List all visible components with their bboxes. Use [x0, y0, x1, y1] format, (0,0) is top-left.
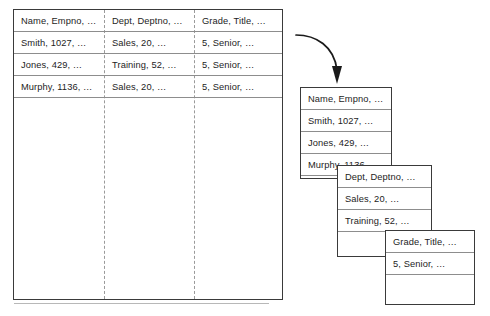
- table-cell: Training, 52, …: [104, 54, 194, 75]
- table-cell: Sales, 20, …: [104, 32, 194, 53]
- table-cell: 5, Senior, …: [194, 32, 284, 53]
- diagram-canvas: Name, Empno, … Dept, Deptno, … Grade, Ti…: [0, 0, 490, 316]
- box-row: Jones, 429, …: [301, 132, 391, 154]
- table-row: Smith, 1027, … Sales, 20, … 5, Senior, …: [14, 32, 282, 54]
- box-row: Name, Empno, …: [301, 88, 391, 110]
- table-row: Jones, 429, … Training, 52, … 5, Senior,…: [14, 54, 282, 76]
- grade-column-box: Grade, Title, … 5, Senior, …: [385, 230, 475, 305]
- table-cell: Grade, Title, …: [194, 10, 284, 31]
- table-cell: Jones, 429, …: [14, 54, 104, 75]
- table-cell: Sales, 20, …: [104, 76, 194, 97]
- table-cell: Murphy, 1136, …: [14, 76, 104, 97]
- box-row: Sales, 20, …: [338, 188, 431, 210]
- table-cell: Smith, 1027, …: [14, 32, 104, 53]
- table-cell: Dept, Deptno, …: [104, 10, 194, 31]
- source-table: Name, Empno, … Dept, Deptno, … Grade, Ti…: [13, 9, 283, 300]
- box-row: Dept, Deptno, …: [338, 166, 431, 188]
- box-row: 5, Senior, …: [386, 253, 474, 275]
- transform-arrow: [290, 26, 360, 88]
- table-cell: Name, Empno, …: [14, 10, 104, 31]
- table-row: Murphy, 1136, … Sales, 20, … 5, Senior, …: [14, 76, 282, 98]
- box-row: Training, 52, …: [338, 210, 431, 232]
- box-row: Grade, Title, …: [386, 231, 474, 253]
- scan-artifact-line: [14, 303, 269, 304]
- box-row: Smith, 1027, …: [301, 110, 391, 132]
- table-row: Name, Empno, … Dept, Deptno, … Grade, Ti…: [14, 10, 282, 32]
- table-cell: 5, Senior, …: [194, 76, 284, 97]
- table-cell: 5, Senior, …: [194, 54, 284, 75]
